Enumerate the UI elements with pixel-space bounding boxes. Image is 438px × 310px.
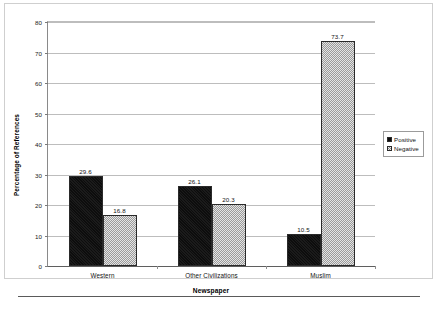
- y-axis-tick-label: 40: [35, 141, 48, 148]
- bar-group-inner: 10.573.7Muslim: [266, 22, 375, 266]
- y-axis-tick-label: 10: [35, 232, 48, 239]
- bar-group: 29.616.8Western: [48, 22, 157, 266]
- y-axis-title: Percentage of References: [13, 114, 20, 196]
- bar-value-label: 16.8: [113, 207, 125, 214]
- checkered-square-swatch-icon: [387, 146, 392, 151]
- legend-label-positive: Positive: [394, 136, 416, 143]
- bar-value-label: 73.7: [331, 33, 343, 40]
- bar-negative[interactable]: 16.8: [103, 215, 137, 266]
- figure-container: Percentage of References 010203040506070…: [0, 0, 438, 310]
- x-axis-category-label: Western: [90, 272, 114, 279]
- y-axis-tick-label: 30: [35, 171, 48, 178]
- bar-group-inner: 26.120.3Other Civilizations: [157, 22, 266, 266]
- legend-item-negative[interactable]: Negative: [387, 144, 419, 153]
- bar-positive[interactable]: 29.6: [69, 176, 103, 266]
- bar-group: 10.573.7Muslim: [266, 22, 375, 266]
- black-square-swatch-icon: [387, 137, 392, 142]
- bar-positive[interactable]: 10.5: [287, 234, 321, 266]
- bar-value-label: 26.1: [188, 178, 200, 185]
- y-axis-tick-label: 20: [35, 202, 48, 209]
- x-tick-mark: [157, 266, 158, 269]
- bar-group: 26.120.3Other Civilizations: [157, 22, 266, 266]
- x-axis-category-label: Muslim: [310, 272, 331, 279]
- x-axis-category-label: Other Civilizations: [185, 272, 238, 279]
- x-tick-mark: [266, 266, 267, 269]
- footer-rule: [18, 296, 420, 297]
- axis-baseline: [48, 266, 375, 267]
- chart-legend: Positive Negative: [383, 131, 424, 157]
- y-axis-tick-label: 80: [35, 19, 48, 26]
- bar-value-label: 20.3: [222, 196, 234, 203]
- bar-value-label: 29.6: [79, 168, 91, 175]
- bar-negative[interactable]: 73.7: [321, 41, 355, 266]
- x-tick-mark: [375, 266, 376, 269]
- x-axis-title: Newspaper: [47, 287, 375, 294]
- bar-group-inner: 29.616.8Western: [48, 22, 157, 266]
- y-axis-tick-label: 50: [35, 110, 48, 117]
- bar-negative[interactable]: 20.3: [212, 204, 246, 266]
- y-axis-tick-label: 60: [35, 80, 48, 87]
- bar-value-label: 10.5: [297, 226, 309, 233]
- y-axis-tick-label: 0: [38, 263, 48, 270]
- plot-area: 0102030405060708029.616.8Western26.120.3…: [47, 21, 375, 266]
- legend-label-negative: Negative: [394, 145, 419, 152]
- legend-item-positive[interactable]: Positive: [387, 135, 419, 144]
- bar-positive[interactable]: 26.1: [178, 186, 212, 266]
- y-axis-tick-label: 70: [35, 49, 48, 56]
